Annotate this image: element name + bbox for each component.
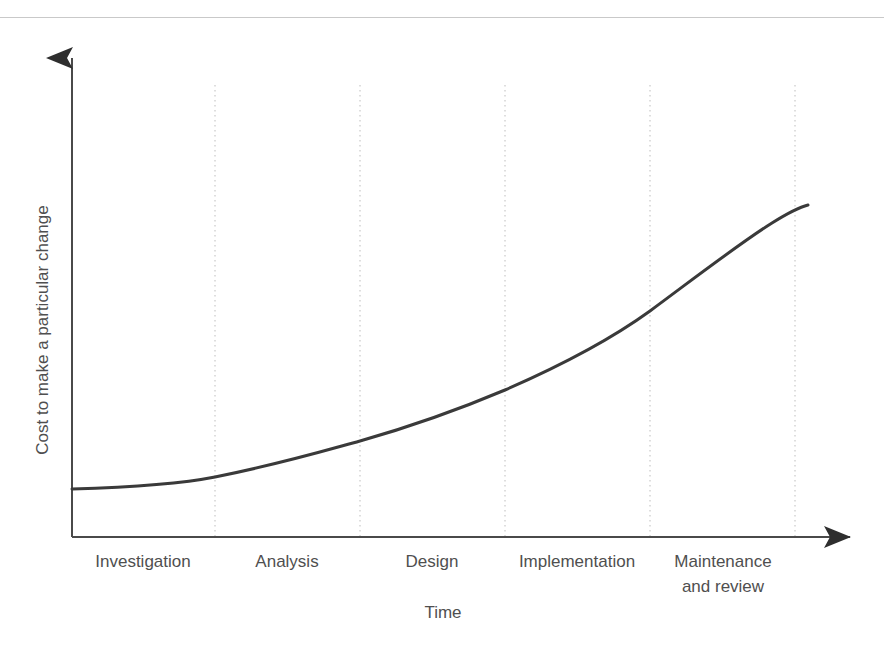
x-axis-tick-labels: Investigation Analysis Design Implementa… [95,552,771,596]
x-tick-label-design: Design [406,552,459,571]
x-tick-label-investigation: Investigation [95,552,190,571]
cost-curve [72,205,808,489]
x-tick-label-maintenance-line2: and review [682,577,765,596]
x-tick-label-maintenance: Maintenance [674,552,771,571]
gridlines-vertical [215,85,795,537]
x-tick-label-implementation: Implementation [519,552,635,571]
x-axis-title: Time [424,603,461,622]
x-tick-label-analysis: Analysis [255,552,318,571]
y-axis-title: Cost to make a particular change [33,205,52,454]
cost-of-change-chart: Cost to make a particular change Time In… [0,0,884,653]
chart-figure: Cost to make a particular change Time In… [0,0,884,653]
